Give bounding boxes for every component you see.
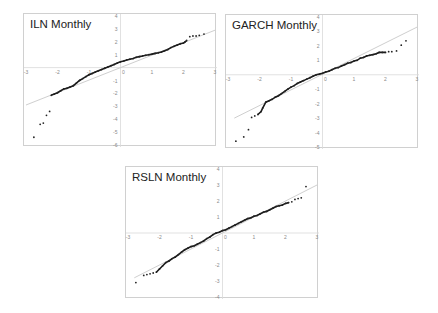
x-tick-label: -3: [24, 69, 29, 75]
data-point: [356, 59, 358, 61]
data-point: [331, 69, 333, 71]
x-tick-label: -2: [55, 69, 60, 75]
data-point: [254, 115, 256, 117]
x-tick-label: 2: [384, 76, 387, 82]
data-point: [49, 111, 51, 113]
data-point: [285, 203, 287, 205]
data-point: [165, 262, 167, 264]
data-point: [287, 88, 289, 90]
data-point: [225, 229, 227, 231]
x-tick-label: -1: [289, 76, 294, 82]
data-point: [337, 67, 339, 69]
data-point: [135, 282, 137, 284]
data-point: [385, 51, 387, 53]
data-point: [33, 136, 35, 138]
data-point: [375, 53, 377, 55]
data-point: [300, 197, 302, 199]
data-point: [381, 51, 383, 53]
data-point: [405, 40, 407, 42]
data-point: [218, 231, 220, 233]
y-tick-label: -3: [113, 103, 118, 109]
data-point: [189, 36, 191, 38]
data-point: [259, 213, 261, 215]
y-tick-label: 4: [115, 13, 118, 19]
y-tick-label: -5: [113, 129, 118, 135]
data-point: [237, 223, 239, 225]
data-point: [363, 57, 365, 59]
data-point: [396, 50, 398, 52]
data-point: [369, 54, 371, 56]
chart-iln-monthly: ILN Monthly -3-2-101234321-1-2-3-4-5-6: [23, 13, 216, 146]
data-point: [53, 93, 55, 95]
data-point: [300, 81, 302, 83]
data-point: [173, 45, 175, 47]
data-point: [110, 65, 112, 67]
data-point: [260, 111, 262, 113]
data-point: [272, 207, 274, 209]
x-tick-label: 0: [324, 76, 327, 82]
data-point: [198, 34, 200, 36]
data-point: [266, 211, 268, 213]
data-point: [235, 140, 237, 142]
data-point: [244, 219, 246, 221]
data-point: [268, 100, 270, 102]
data-point: [248, 129, 250, 131]
data-point: [256, 215, 258, 217]
y-tick-label: -5: [315, 144, 320, 150]
data-point: [353, 60, 355, 62]
data-point: [291, 201, 293, 203]
data-point: [72, 85, 74, 87]
x-tick-label: -3: [226, 76, 231, 82]
data-point: [215, 232, 217, 234]
data-point: [309, 77, 311, 79]
y-tick-label: -1: [113, 78, 118, 84]
data-point: [297, 198, 299, 200]
y-tick-label: -3: [315, 115, 320, 121]
data-point: [66, 87, 68, 89]
data-point: [347, 62, 349, 64]
data-point: [288, 202, 290, 204]
data-point: [187, 247, 189, 249]
data-point: [101, 69, 103, 71]
data-point: [179, 43, 181, 45]
data-point: [149, 273, 151, 275]
data-point: [50, 94, 52, 96]
data-point: [60, 90, 62, 92]
y-tick-label: 3: [217, 182, 220, 188]
data-point: [372, 54, 374, 56]
data-point: [269, 209, 271, 211]
data-point: [167, 49, 169, 51]
data-point: [46, 114, 48, 116]
data-point: [88, 74, 90, 76]
data-point: [113, 63, 115, 65]
data-point: [63, 88, 65, 90]
data-point: [253, 215, 255, 217]
x-tick-label: 2: [284, 234, 287, 240]
data-point: [378, 51, 380, 53]
data-point: [178, 254, 180, 256]
data-point: [344, 64, 346, 66]
data-point: [275, 206, 277, 208]
data-point: [184, 249, 186, 251]
data-point: [94, 71, 96, 73]
data-point: [120, 61, 122, 63]
x-tick-label: -2: [157, 234, 162, 240]
data-point: [155, 271, 157, 273]
data-point: [250, 217, 252, 219]
data-point: [174, 256, 176, 258]
data-point: [350, 62, 352, 64]
data-point: [241, 221, 243, 223]
data-point: [42, 122, 44, 124]
data-point: [181, 251, 183, 253]
y-tick-label: -2: [113, 90, 118, 96]
data-point: [271, 98, 273, 100]
data-point: [203, 240, 205, 242]
data-point: [359, 57, 361, 59]
data-point: [145, 54, 147, 56]
data-point: [278, 205, 280, 207]
data-point: [157, 52, 159, 54]
data-point: [196, 243, 198, 245]
data-point: [290, 86, 292, 88]
data-point: [296, 83, 298, 85]
data-point: [265, 101, 267, 103]
